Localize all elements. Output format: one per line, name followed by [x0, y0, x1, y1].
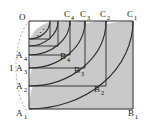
label-b4: B [60, 51, 66, 61]
label-c2: C [100, 9, 106, 19]
label-c1: C [127, 9, 133, 19]
label-b4-sub: 4 [67, 57, 70, 63]
label-a4-sub: 4 [24, 56, 27, 62]
label-b1-sub: 1 [135, 114, 138, 120]
label-c4-sub: 4 [71, 15, 74, 21]
label-a2: A [16, 81, 23, 91]
geometry-figure: O 1 A 4 A 3 A 2 A 1 C 4 C 3 C 2 C 1 B 4 … [0, 0, 144, 133]
label-b3-sub: 3 [81, 71, 84, 77]
figure-container: O 1 A 4 A 3 A 2 A 1 C 4 C 3 C 2 C 1 B 4 … [0, 0, 144, 133]
label-c4: C [64, 9, 70, 19]
label-b2-sub: 2 [101, 90, 104, 96]
ellipsis-icon: ⋰ [36, 28, 45, 38]
label-a1: A [16, 108, 23, 118]
label-a1-sub: 1 [24, 114, 27, 120]
label-a3-sub: 3 [24, 69, 27, 75]
label-b2: B [94, 84, 100, 94]
label-radius: 1 [9, 63, 14, 73]
label-origin: O [19, 12, 26, 22]
label-a3: A [16, 63, 23, 73]
label-a2-sub: 2 [24, 87, 27, 93]
label-c1-sub: 1 [134, 15, 137, 21]
label-b1: B [128, 108, 134, 118]
label-b3: B [74, 65, 80, 75]
label-c3-sub: 3 [87, 15, 90, 21]
label-c3: C [80, 9, 86, 19]
label-a4: A [16, 50, 23, 60]
label-c2-sub: 2 [107, 15, 110, 21]
